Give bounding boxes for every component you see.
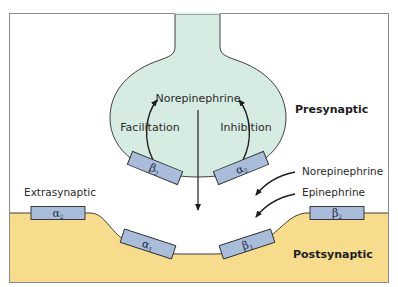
label-inhibition: Inhibition: [220, 121, 271, 134]
label-postsynaptic: Postsynaptic: [293, 248, 373, 261]
label-presynaptic: Presynaptic: [295, 103, 368, 116]
label-facilitation: Facilitation: [120, 121, 179, 134]
label-epinephrine: Epinephrine: [302, 186, 365, 198]
label-norepinephrine-center: Norepinephrine: [155, 92, 240, 105]
receptor-extra-alpha2: α2: [31, 207, 85, 221]
label-extrasynaptic: Extrasynaptic: [24, 186, 96, 198]
label-norepinephrine-right: Norepinephrine: [302, 165, 383, 177]
synapse-diagram: β2 α2 α2 α1 β1 β2 Norepinephrine Facilit…: [0, 0, 398, 287]
receptor-extra-beta2: β2: [310, 207, 364, 221]
